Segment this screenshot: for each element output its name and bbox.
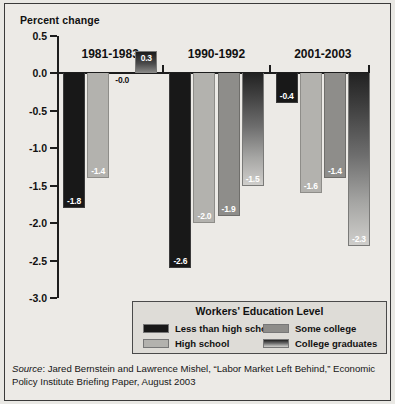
bar-1990-1992-college-graduates — [242, 73, 264, 185]
bar-value-label: -1.5 — [242, 175, 264, 184]
bar-2001-2003-college-graduates — [348, 73, 370, 245]
bar-value-label: -1.4 — [87, 167, 109, 176]
black-swatch — [143, 324, 169, 333]
bar-value-label: -0.0 — [111, 76, 133, 85]
bar-2001-2003-high-school — [300, 73, 322, 193]
source-text: : Jared Bernstein and Lawrence Mishel, “… — [12, 363, 375, 387]
bar-value-label: -1.6 — [300, 182, 322, 191]
legend-title: Workers' Education Level — [133, 305, 386, 317]
source-label: Source — [12, 363, 42, 374]
bar-1990-1992-high-school — [193, 73, 215, 223]
bar-1981-1983-high-school — [87, 73, 109, 178]
legend-item-college-graduates: College graduates — [263, 338, 377, 349]
bar-value-label: -1.4 — [324, 167, 346, 176]
y-axis-tick-label: -2.5 — [5, 255, 47, 267]
legend-item-label: Some college — [295, 323, 356, 334]
y-axis-tick — [50, 260, 57, 262]
y-axis-tick — [50, 147, 57, 149]
bar-value-label: -2.3 — [348, 235, 370, 244]
y-axis-tick-label: -1.5 — [5, 180, 47, 192]
group-label-1990-1992: 1990-1992 — [169, 47, 263, 61]
plot-area: 0.50.0-0.5-1.0-1.5-2.0-2.5-3.01981-1983-… — [57, 36, 370, 298]
light-gray-swatch — [143, 339, 169, 348]
bar-1981-1983-less-than-high-school — [63, 73, 85, 208]
legend-item-label: High school — [175, 338, 229, 349]
legend-item-label: Less than high school — [175, 323, 275, 334]
bar-value-label: -1.8 — [63, 197, 85, 206]
bar-2001-2003-some-college — [324, 73, 346, 178]
source-note: Source: Jared Bernstein and Lawrence Mis… — [12, 363, 382, 388]
gradient-swatch — [263, 339, 289, 348]
y-axis-tick-label: -1.0 — [5, 142, 47, 154]
group-separator-tick — [269, 65, 271, 72]
y-axis-tick-label: -2.0 — [5, 217, 47, 229]
group-label-2001-2003: 2001-2003 — [276, 47, 370, 61]
medium-gray-swatch — [263, 324, 289, 333]
y-axis-tick-label: -0.5 — [5, 105, 47, 117]
y-axis-tick-label: 0.5 — [5, 30, 47, 42]
legend-item-some-college: Some college — [263, 323, 356, 334]
y-axis-tick — [50, 72, 57, 74]
bar-1990-1992-some-college — [218, 73, 240, 215]
bar-value-label: 0.3 — [135, 54, 157, 63]
group-separator-tick — [162, 65, 164, 72]
y-axis-tick-label: 0.0 — [5, 67, 47, 79]
y-axis-tick-label: -3.0 — [5, 292, 47, 304]
bar-value-label: -2.6 — [169, 257, 191, 266]
legend-item-less-than-high-school: Less than high school — [143, 323, 275, 334]
y-axis-tick — [50, 222, 57, 224]
y-axis-tick — [50, 185, 57, 187]
y-axis-line — [57, 36, 59, 298]
y-axis-title: Percent change — [20, 14, 100, 26]
group-separator-tick — [368, 65, 370, 72]
legend-box: Workers' Education Level Less than high … — [132, 301, 387, 354]
bar-value-label: -2.0 — [193, 212, 215, 221]
y-axis-tick — [50, 35, 57, 37]
legend-item-high-school: High school — [143, 338, 229, 349]
legend-item-label: College graduates — [295, 338, 377, 349]
bar-value-label: -0.4 — [276, 92, 298, 101]
bar-value-label: -1.9 — [218, 205, 240, 214]
figure-percent-change-by-education: Percent change 0.50.0-0.5-1.0-1.5-2.0-2.… — [0, 0, 395, 404]
y-axis-tick — [50, 110, 57, 112]
bar-1990-1992-less-than-high-school — [169, 73, 191, 268]
y-axis-tick — [50, 297, 57, 299]
